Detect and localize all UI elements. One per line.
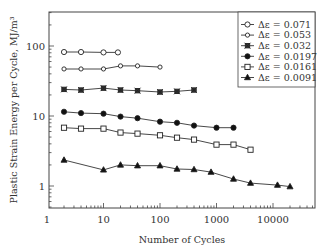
x-axis-label: Number of Cycles (139, 234, 226, 245)
open-circle-marker (78, 49, 83, 54)
open-square-marker (61, 125, 66, 130)
x-tick-label: 100 (150, 214, 169, 225)
open-square-marker (214, 142, 219, 147)
open-square-marker (118, 130, 123, 135)
open-circle-marker (61, 49, 66, 54)
open-diamond-marker (118, 64, 122, 68)
filled-circle-marker (101, 111, 106, 116)
x-tick-label: 1 (44, 214, 50, 225)
filled-circle-marker (157, 119, 162, 124)
open-diamond-marker (79, 67, 83, 71)
open-square-marker (135, 131, 140, 136)
open-diamond-marker (158, 65, 162, 69)
chart: 110100100010000 110100 Δε = 0.071Δε = 0.… (0, 0, 333, 251)
legend-label: Δε = 0.0091 (258, 72, 317, 83)
open-square-marker (245, 64, 250, 69)
y-tick-label: 10 (32, 111, 45, 122)
open-circle-marker (115, 50, 120, 55)
open-diamond-marker (135, 64, 139, 68)
open-square-marker (78, 126, 83, 131)
x-axis: 110100100010000 (44, 203, 313, 225)
x-tick-label: 10 (97, 214, 110, 225)
open-square-marker (101, 126, 106, 131)
series-0 (61, 49, 120, 55)
filled-circle-marker (135, 116, 140, 121)
legend-label: Δε = 0.053 (258, 29, 311, 40)
y-axis-label: Plastic Strain Energy per Cycle, MJ/m³ (8, 16, 19, 203)
series-3 (61, 109, 236, 130)
legend-label: Δε = 0.032 (258, 40, 311, 51)
filled-circle-marker (78, 111, 83, 116)
legend: Δε = 0.071Δε = 0.053Δε = 0.032Δε = 0.019… (238, 12, 317, 87)
filled-circle-marker (191, 123, 196, 128)
series-1 (62, 64, 162, 71)
x-tick-label: 10000 (257, 214, 289, 225)
series-line (64, 66, 160, 69)
filled-circle-marker (231, 125, 236, 130)
series-line (64, 160, 290, 187)
series-5 (61, 157, 293, 189)
y-tick-label: 100 (26, 41, 45, 52)
y-tick-label: 1 (39, 181, 45, 192)
open-circle-marker (101, 50, 106, 55)
open-square-marker (157, 133, 162, 138)
filled-triangle-marker (61, 157, 67, 162)
legend-label: Δε = 0.071 (258, 19, 311, 30)
open-diamond-marker (101, 67, 105, 71)
series-4 (61, 125, 253, 152)
open-diamond-marker (245, 33, 249, 37)
filled-circle-marker (245, 54, 250, 59)
open-circle-marker (245, 22, 250, 27)
filled-circle-marker (118, 114, 123, 119)
x-tick-label: 1000 (204, 214, 229, 225)
open-diamond-marker (62, 67, 66, 71)
legend-label: Δε = 0.0161 (258, 61, 317, 72)
open-square-marker (191, 137, 196, 142)
y-axis: 110100 (26, 13, 54, 207)
filled-circle-marker (174, 120, 179, 125)
open-square-marker (231, 142, 236, 147)
filled-triangle-marker (157, 162, 163, 167)
legend-label: Δε = 0.0197 (258, 51, 317, 62)
filled-circle-marker (214, 125, 219, 130)
series-2 (61, 85, 197, 95)
open-square-marker (174, 135, 179, 140)
filled-triangle-marker (118, 162, 124, 167)
series-line (64, 112, 234, 128)
filled-circle-marker (61, 109, 66, 114)
series-line (64, 128, 251, 150)
open-square-marker (248, 147, 253, 152)
